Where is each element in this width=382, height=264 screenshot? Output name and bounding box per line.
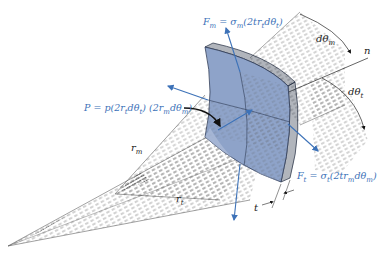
normal-n-label: n (364, 46, 370, 56)
thickness-t-label: t (254, 203, 258, 213)
r-t-label: rt (176, 194, 184, 207)
fm-force-label: Fm = σm(2trtdθt) (203, 17, 283, 30)
thickness-dimension (262, 180, 294, 208)
dtheta-m-label: dθm (316, 34, 335, 47)
pressure-vessel-element-diagram: Fm = σm(2trtdθt) P = p(2rtdθt) (2rmdθm) … (0, 0, 382, 264)
ft-force-label: Ft = σt(2trmdθm) (297, 171, 377, 184)
ft-left-arrow (168, 86, 208, 100)
r-m-label: rm (131, 143, 142, 156)
pressure-force-label: P = p(2rtdθt) (2rmdθm) (84, 103, 192, 116)
dtheta-t-label: dθt (348, 87, 363, 100)
